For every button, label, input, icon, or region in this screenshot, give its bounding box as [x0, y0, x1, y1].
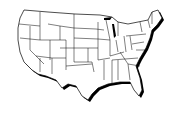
us-map [0, 0, 176, 115]
